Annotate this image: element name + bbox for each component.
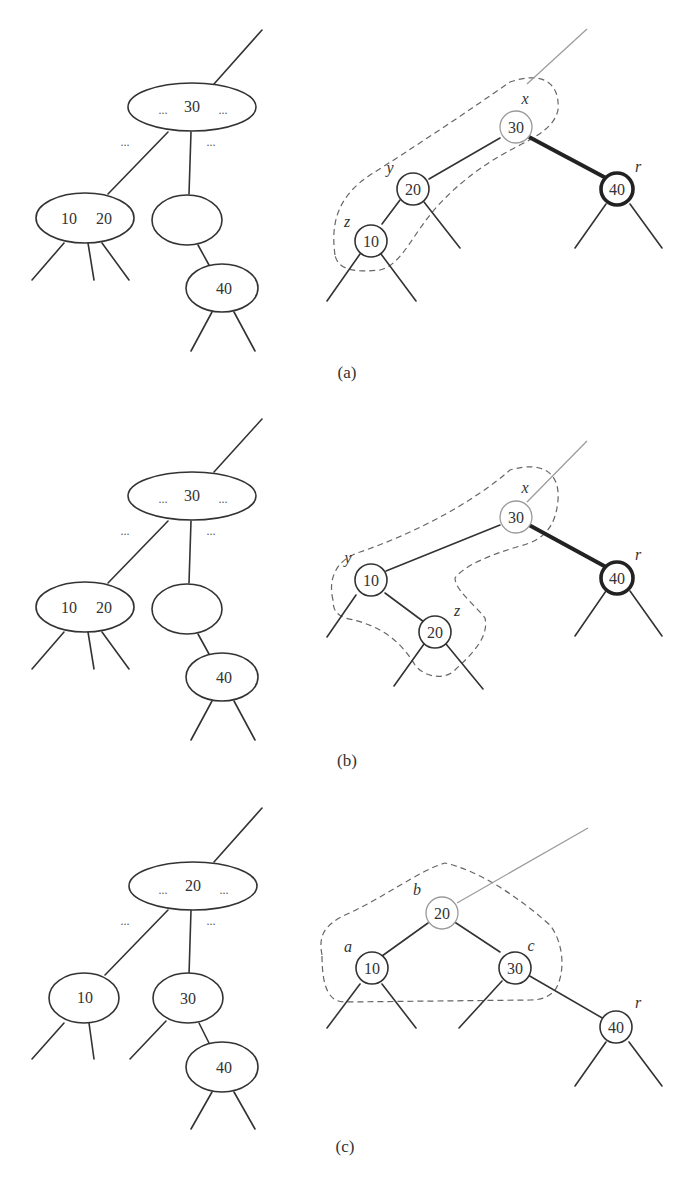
btree-edge-right-dots: ... bbox=[207, 524, 216, 538]
btree-root-key: 30 bbox=[184, 487, 200, 504]
panel-b-btree: ... 30 ... ... ... 10 20 40 bbox=[32, 419, 262, 740]
btree-left-child-key-1: 10 bbox=[61, 210, 77, 227]
btree-root-right-dots: ... bbox=[219, 103, 228, 117]
btree-left-child-key-1: 10 bbox=[61, 599, 77, 616]
rb-node-c-key: 30 bbox=[507, 960, 523, 977]
rb-label-a: a bbox=[344, 938, 352, 955]
rb-label-r: r bbox=[635, 994, 642, 1011]
btree-left-child-key-2: 20 bbox=[96, 210, 112, 227]
panel-a: ... 30 ... ... ... 10 20 40 30 x bbox=[32, 29, 662, 382]
btree-grandchild-key: 40 bbox=[216, 1059, 232, 1076]
rb-node-x-key: 30 bbox=[508, 509, 524, 526]
btree-edge-right-dots: ... bbox=[207, 914, 216, 928]
panel-a-rbtree: 30 x 20 y 10 z 40 r bbox=[327, 29, 662, 301]
btree-grandchild-key: 40 bbox=[216, 280, 232, 297]
rb-node-r-key: 40 bbox=[608, 1019, 624, 1036]
rb-label-x: x bbox=[520, 90, 528, 107]
btree-left-child-node bbox=[36, 582, 134, 632]
btree-root-right-dots: ... bbox=[220, 883, 229, 897]
rb-node-r-key: 40 bbox=[609, 570, 625, 587]
panel-c: ... 20 ... ... ... 10 30 40 20 b bbox=[32, 808, 662, 1156]
btree-root-key: 20 bbox=[185, 877, 201, 894]
btree-middle-child-key: 30 bbox=[180, 990, 196, 1007]
rb-label-r: r bbox=[635, 158, 642, 175]
rb-label-b: b bbox=[413, 881, 421, 898]
restructure-region bbox=[321, 863, 562, 1002]
panel-a-caption: (a) bbox=[338, 363, 357, 382]
btree-root-key: 30 bbox=[184, 98, 200, 115]
rb-label-r: r bbox=[635, 546, 642, 563]
btree-edge-left-dots: ... bbox=[121, 914, 130, 928]
panel-a-btree: ... 30 ... ... ... 10 20 40 bbox=[32, 30, 262, 351]
rb-label-z: z bbox=[343, 213, 351, 230]
rb-label-y: y bbox=[342, 549, 352, 567]
panel-c-caption: (c) bbox=[336, 1137, 355, 1156]
btree-left-child-key: 10 bbox=[77, 989, 93, 1006]
rb-node-y-key: 10 bbox=[363, 572, 379, 589]
rb-label-x: x bbox=[520, 479, 528, 496]
btree-middle-child-node bbox=[152, 584, 222, 634]
rb-label-y: y bbox=[384, 159, 394, 177]
btree-edge-right-dots: ... bbox=[207, 135, 216, 149]
rb-node-x-key: 30 bbox=[508, 119, 524, 136]
rb-node-a-key: 10 bbox=[364, 960, 380, 977]
panel-b: ... 30 ... ... ... 10 20 40 30 x bbox=[32, 419, 662, 770]
rb-node-b-key: 20 bbox=[434, 905, 450, 922]
btree-grandchild-key: 40 bbox=[216, 669, 232, 686]
rb-tree-restructure-figure: ... 30 ... ... ... 10 20 40 30 x bbox=[0, 0, 697, 1180]
panel-c-rbtree: 20 b 10 a 30 c 40 r bbox=[321, 828, 662, 1086]
btree-root-right-dots: ... bbox=[219, 492, 228, 506]
btree-left-child-key-2: 20 bbox=[96, 599, 112, 616]
btree-root-left-dots: ... bbox=[159, 883, 168, 897]
rb-label-z: z bbox=[453, 602, 461, 619]
panel-b-rbtree: 30 x 10 y 20 z 40 r bbox=[327, 441, 662, 689]
btree-root-left-dots: ... bbox=[159, 492, 168, 506]
rb-node-z-key: 10 bbox=[363, 233, 379, 250]
rb-node-y-key: 20 bbox=[405, 181, 421, 198]
rb-node-z-key: 20 bbox=[427, 624, 443, 641]
rb-label-c: c bbox=[527, 937, 534, 954]
btree-left-child-node bbox=[36, 193, 134, 243]
panel-c-btree: ... 20 ... ... ... 10 30 40 bbox=[32, 808, 262, 1129]
btree-edge-left-dots: ... bbox=[121, 524, 130, 538]
rb-node-r-key: 40 bbox=[609, 181, 625, 198]
panel-b-caption: (b) bbox=[337, 751, 357, 770]
btree-edge-left-dots: ... bbox=[121, 135, 130, 149]
btree-root-left-dots: ... bbox=[159, 103, 168, 117]
btree-middle-child-node bbox=[152, 195, 222, 245]
